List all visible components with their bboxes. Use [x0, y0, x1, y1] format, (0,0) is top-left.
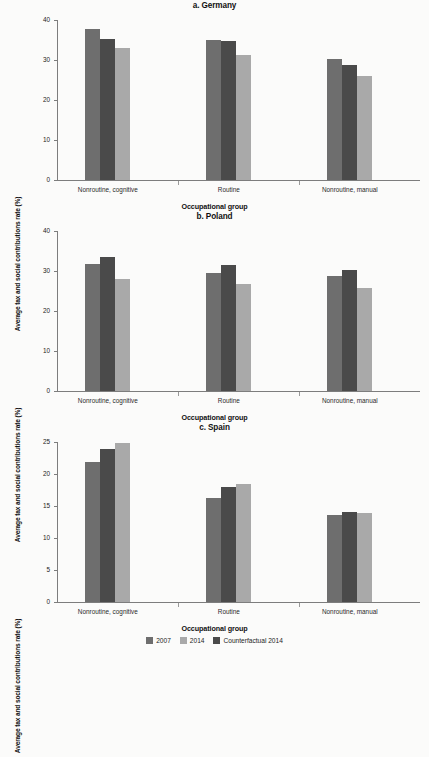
yaxis-label: Average tax and social contributions rat…	[14, 602, 21, 757]
legend-swatch-icon	[146, 637, 153, 644]
y-tick-label: 20	[34, 97, 50, 103]
legend-label: 2007	[156, 637, 171, 644]
y-tick-label: 30	[34, 57, 50, 63]
bar	[206, 498, 221, 602]
x-group-separator	[299, 603, 300, 607]
x-tick-label: Nonroutine, manual	[295, 186, 405, 193]
y-tick-mark	[54, 311, 57, 312]
bar	[100, 449, 115, 602]
y-tick-mark	[54, 60, 57, 61]
x-tick-label: Routine	[174, 608, 284, 615]
y-tick-label: 0	[34, 177, 50, 183]
legend-swatch-icon	[213, 637, 220, 644]
legend-item: 2014	[180, 637, 205, 644]
y-tick-label: 25	[34, 439, 50, 445]
y-tick-mark	[54, 602, 57, 603]
y-tick-label: 30	[34, 268, 50, 274]
x-axis-line	[57, 180, 420, 181]
bar	[100, 39, 115, 180]
legend-label: Counterfactual 2014	[223, 637, 282, 644]
x-tick-label: Routine	[174, 186, 284, 193]
y-axis-line	[57, 231, 58, 391]
x-tick-label: Nonroutine, manual	[295, 397, 405, 404]
y-tick-label: 40	[34, 17, 50, 23]
legend-label: 2014	[190, 637, 205, 644]
y-tick-label: 40	[34, 228, 50, 234]
legend-item: Counterfactual 2014	[213, 637, 282, 644]
bar	[342, 512, 357, 602]
panel-title-spain: c. Spain	[0, 422, 429, 434]
plot-area-spain: Average tax and social contributions rat…	[0, 434, 429, 624]
chart-legend: 20072014Counterfactual 2014	[0, 637, 429, 644]
bar	[221, 41, 236, 180]
bar	[327, 59, 342, 180]
y-tick-mark	[54, 351, 57, 352]
panel-germany: a. Germany Average tax and social contri…	[0, 0, 429, 211]
y-tick-label: 20	[34, 308, 50, 314]
xaxis-label-germany: Occupational group	[0, 202, 429, 211]
bar	[342, 65, 357, 180]
bar	[100, 257, 115, 391]
x-axis-line	[57, 391, 420, 392]
bar	[357, 76, 372, 180]
panel-title-poland: b. Poland	[0, 211, 429, 223]
bar	[206, 40, 221, 180]
y-tick-mark	[54, 474, 57, 475]
legend-swatch-icon	[180, 637, 187, 644]
legend-item: 2007	[146, 637, 171, 644]
bar	[357, 288, 372, 391]
y-tick-label: 0	[34, 599, 50, 605]
panel-poland: b. Poland Average tax and social contrib…	[0, 211, 429, 422]
y-tick-mark	[54, 442, 57, 443]
bar	[85, 462, 100, 602]
bar	[327, 515, 342, 602]
y-tick-mark	[54, 271, 57, 272]
x-group-separator	[178, 181, 179, 185]
y-tick-mark	[54, 570, 57, 571]
y-tick-label: 10	[34, 137, 50, 143]
y-tick-label: 20	[34, 471, 50, 477]
y-tick-label: 5	[34, 567, 50, 573]
y-tick-mark	[54, 231, 57, 232]
plot-area-poland: Average tax and social contributions rat…	[0, 223, 429, 413]
x-tick-label: Routine	[174, 397, 284, 404]
bar	[221, 487, 236, 602]
bar	[115, 443, 130, 602]
y-tick-label: 0	[34, 388, 50, 394]
y-tick-label: 10	[34, 348, 50, 354]
y-tick-label: 10	[34, 535, 50, 541]
y-tick-mark	[54, 180, 57, 181]
bar	[236, 284, 251, 391]
panel-spain: c. Spain Average tax and social contribu…	[0, 422, 429, 633]
y-axis-line	[57, 20, 58, 180]
y-axis-line	[57, 442, 58, 602]
bar	[357, 513, 372, 602]
x-axis-line	[57, 602, 420, 603]
x-group-separator	[178, 392, 179, 396]
bar	[85, 29, 100, 180]
bar	[115, 48, 130, 180]
y-tick-mark	[54, 538, 57, 539]
y-tick-mark	[54, 100, 57, 101]
y-tick-mark	[54, 20, 57, 21]
bar	[85, 264, 100, 391]
x-group-separator	[299, 181, 300, 185]
plot-area-germany: Average tax and social contributions rat…	[0, 12, 429, 202]
xaxis-label-spain: Occupational group	[0, 624, 429, 633]
bar	[115, 279, 130, 391]
y-tick-mark	[54, 391, 57, 392]
bar	[221, 265, 236, 391]
x-group-separator	[299, 392, 300, 396]
bar	[327, 276, 342, 391]
x-tick-label: Nonroutine, cognitive	[53, 608, 163, 615]
bar	[342, 270, 357, 391]
x-group-separator	[178, 603, 179, 607]
x-tick-label: Nonroutine, cognitive	[53, 397, 163, 404]
bar	[236, 484, 251, 602]
xaxis-label-poland: Occupational group	[0, 413, 429, 422]
bar	[236, 55, 251, 180]
y-tick-mark	[54, 506, 57, 507]
panel-title-germany: a. Germany	[0, 0, 429, 12]
y-tick-mark	[54, 140, 57, 141]
